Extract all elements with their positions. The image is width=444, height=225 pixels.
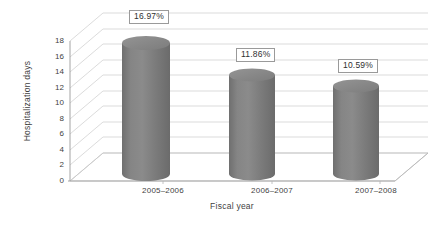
y-tick-8: 8 xyxy=(44,114,64,123)
x-category-label-2005-2006: 2005–2006 xyxy=(116,186,210,195)
bar-chart: Hospitalization days Fiscal year 0 2 4 6… xyxy=(0,0,444,225)
bar-2005-2006 xyxy=(122,36,170,181)
y-tick-12: 12 xyxy=(44,83,64,92)
y-tick-18: 18 xyxy=(44,36,64,45)
y-tick-14: 14 xyxy=(44,67,64,76)
y-axis-title: Hospitalization days xyxy=(22,26,32,176)
y-axis-line xyxy=(68,41,70,181)
data-label-2007-2008: 10.59% xyxy=(338,59,378,73)
y-tick-2: 2 xyxy=(44,160,64,169)
y-tick-6: 6 xyxy=(44,129,64,138)
x-axis-title: Fiscal year xyxy=(172,201,292,211)
bar-2007-2008 xyxy=(333,80,379,181)
y-tick-0: 0 xyxy=(44,176,64,185)
data-label-2005-2006: 16.97% xyxy=(129,10,169,24)
x-category-label-2006-2007: 2006–2007 xyxy=(225,186,319,195)
x-category-label-2007-2008: 2007–2008 xyxy=(329,186,423,195)
y-tick-10: 10 xyxy=(44,98,64,107)
bar-2006-2007 xyxy=(229,69,275,181)
y-tick-4: 4 xyxy=(44,145,64,154)
y-tick-16: 16 xyxy=(44,52,64,61)
data-label-2006-2007: 11.86% xyxy=(236,48,275,62)
